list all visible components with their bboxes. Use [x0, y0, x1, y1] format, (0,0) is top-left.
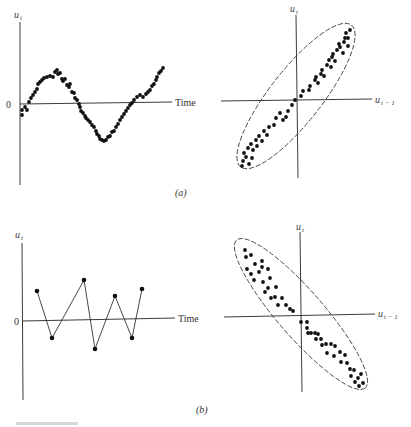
data-point — [51, 75, 55, 79]
data-point — [272, 123, 276, 127]
chart-b-right: u t u t − 1 — [219, 221, 397, 403]
data-point — [244, 155, 248, 159]
data-point — [278, 111, 282, 115]
x-axis-label-sub: t − 1 — [381, 99, 395, 107]
data-point — [75, 98, 79, 102]
data-point — [35, 87, 39, 91]
data-point — [132, 98, 136, 102]
data-point — [267, 125, 271, 129]
data-point — [257, 134, 261, 138]
data-point — [291, 309, 295, 313]
data-point — [112, 129, 116, 133]
data-point — [242, 151, 246, 155]
data-point — [319, 337, 323, 341]
autocorrelation-figure: u t 0 Time u t u t − 1 (a) u t 0 Time u … — [0, 0, 411, 427]
data-point — [361, 381, 365, 385]
y-axis-label: u — [296, 221, 301, 232]
data-point — [27, 100, 31, 104]
data-point — [243, 248, 247, 252]
data-point — [252, 278, 256, 282]
data-point — [263, 290, 267, 294]
data-point — [140, 287, 145, 292]
data-point — [148, 88, 152, 92]
data-point — [343, 353, 347, 357]
data-point — [286, 109, 290, 113]
x-axis-label: u — [375, 94, 380, 105]
data-point — [161, 66, 165, 70]
data-point — [155, 75, 159, 79]
data-point — [348, 28, 352, 32]
data-point — [320, 68, 324, 72]
data-point — [116, 122, 120, 126]
data-point — [284, 115, 288, 119]
data-point — [307, 88, 311, 92]
y-axis — [296, 15, 298, 178]
data-point — [342, 40, 346, 44]
y-axis — [300, 232, 302, 392]
data-point — [82, 278, 87, 283]
data-point — [327, 58, 331, 62]
data-point — [301, 89, 305, 93]
data-point — [266, 286, 270, 290]
data-point — [108, 134, 112, 138]
data-point — [346, 44, 350, 48]
data-point — [281, 118, 285, 122]
data-point — [290, 103, 294, 107]
data-points — [243, 248, 365, 388]
data-point — [244, 255, 248, 259]
data-point — [309, 331, 313, 335]
y-axis-label: u — [290, 3, 295, 14]
data-point — [349, 374, 353, 378]
data-point — [247, 162, 251, 166]
data-point — [320, 343, 324, 347]
data-point — [92, 125, 96, 129]
y-axis-label-sub: t — [296, 8, 299, 16]
data-point — [254, 138, 258, 142]
y-axis-label: u — [15, 229, 20, 240]
data-point — [359, 372, 363, 376]
data-point — [93, 347, 98, 352]
data-point — [251, 148, 255, 152]
data-points — [20, 66, 165, 143]
y-axis — [22, 243, 23, 400]
x-axis-label: u — [378, 308, 383, 319]
data-point — [280, 296, 284, 300]
x-axis — [20, 102, 172, 104]
data-point — [356, 376, 360, 380]
data-point — [260, 259, 264, 263]
data-point — [299, 94, 303, 98]
data-point — [130, 336, 135, 341]
data-point — [273, 295, 277, 299]
data-point — [113, 294, 118, 299]
data-point — [25, 108, 29, 112]
data-point — [329, 342, 333, 346]
data-point — [141, 95, 145, 99]
data-point — [63, 77, 67, 81]
data-point — [260, 265, 264, 269]
data-point — [346, 36, 350, 40]
data-point — [344, 31, 348, 35]
x-axis — [22, 318, 175, 321]
x-axis-label-sub: t − 1 — [384, 313, 398, 321]
data-point — [329, 65, 333, 69]
data-point — [335, 48, 339, 52]
data-point — [293, 98, 297, 102]
data-point — [58, 71, 62, 75]
data-point — [249, 253, 253, 257]
data-point — [339, 360, 343, 364]
data-point — [78, 105, 82, 109]
data-point — [353, 380, 357, 384]
data-point — [55, 68, 59, 72]
data-point — [269, 296, 273, 300]
x-axis-label: Time — [175, 97, 196, 108]
y-axis-label-sub: t — [302, 226, 305, 234]
data-point — [316, 81, 320, 85]
data-point — [341, 51, 345, 55]
data-point — [261, 280, 265, 284]
data-point — [332, 354, 336, 358]
data-point — [308, 84, 312, 88]
figure-label-remnant — [16, 422, 78, 425]
data-point — [333, 344, 337, 348]
y-axis-label-sub: t — [21, 234, 24, 242]
x-axis-label: Time — [178, 313, 199, 324]
